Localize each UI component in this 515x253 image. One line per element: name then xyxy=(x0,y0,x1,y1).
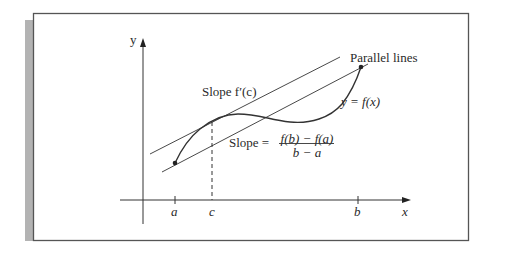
y-axis-label: y xyxy=(130,32,137,47)
point-a xyxy=(173,161,178,166)
point-b xyxy=(359,65,364,70)
tangent-slope-label: Slope f′(c) xyxy=(202,84,256,99)
frame-shadow xyxy=(25,20,34,241)
mean-value-theorem-diagram: y x a c b Parallel lines y = f(x) Slope … xyxy=(0,0,515,253)
function-label: y = f(x) xyxy=(339,94,380,109)
parallel-lines-label: Parallel lines xyxy=(350,50,418,65)
tick-b-label: b xyxy=(354,204,361,219)
tick-c-label: c xyxy=(209,204,215,219)
secant-slope-prefix: Slope = xyxy=(229,135,269,150)
tick-a-label: a xyxy=(171,204,178,219)
x-axis-label: x xyxy=(401,204,408,219)
secant-slope-denominator: b − a xyxy=(293,145,322,160)
